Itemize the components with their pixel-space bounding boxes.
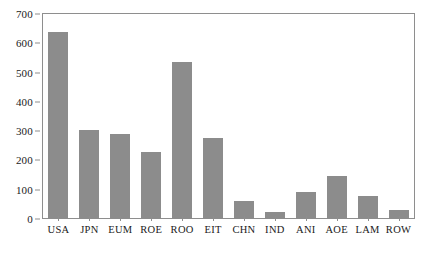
x-tick-mark <box>337 216 338 221</box>
y-tick-label: 300 <box>16 126 33 137</box>
x-tick-label-usa: USA <box>48 224 70 236</box>
bar-chart: 0100200300400500600700 USAJPNEUMROEROOEI… <box>0 0 428 255</box>
y-tick-label: 100 <box>16 184 33 195</box>
y-tick-mark <box>35 101 40 102</box>
bar-eum <box>110 134 130 219</box>
x-tick-label-roe: ROE <box>140 224 162 236</box>
y-tick-label: 0 <box>27 214 33 225</box>
y-tick-mark <box>35 219 40 220</box>
y-tick-label: 400 <box>16 96 33 107</box>
y-tick-mark <box>35 131 40 132</box>
y-tick-label: 700 <box>16 9 33 20</box>
y-tick-label: 200 <box>16 155 33 166</box>
y-tick-mark <box>35 189 40 190</box>
bar-ani <box>296 192 316 219</box>
x-tick-label-row: ROW <box>386 224 411 236</box>
x-tick-label-lam: LAM <box>356 224 380 236</box>
x-tick-label-roo: ROO <box>171 224 194 236</box>
x-tick-label-jpn: JPN <box>80 224 98 236</box>
bar-roo <box>172 62 192 219</box>
x-tick-mark <box>275 216 276 221</box>
bars-layer <box>43 14 414 219</box>
x-tick-mark <box>89 216 90 221</box>
x-tick-mark <box>120 216 121 221</box>
y-tick-label: 500 <box>16 67 33 78</box>
bar-jpn <box>79 130 99 219</box>
x-tick-mark <box>151 216 152 221</box>
x-tick-label-aoe: AOE <box>325 224 347 236</box>
x-tick-mark <box>399 216 400 221</box>
x-axis: USAJPNEUMROEROOEITCHNINDANIAOELAMROW <box>43 222 414 244</box>
bar-roe <box>141 152 161 219</box>
x-tick-mark <box>58 216 59 221</box>
y-tick-mark <box>35 160 40 161</box>
x-tick-label-ind: IND <box>265 224 285 236</box>
y-tick-mark <box>35 14 40 15</box>
bar-aoe <box>327 176 347 219</box>
x-tick-label-eit: EIT <box>204 224 221 236</box>
y-tick-mark <box>35 43 40 44</box>
x-tick-mark <box>306 216 307 221</box>
y-axis: 0100200300400500600700 <box>0 0 40 255</box>
x-tick-mark <box>182 216 183 221</box>
x-tick-mark <box>244 216 245 221</box>
y-tick-label: 600 <box>16 38 33 49</box>
x-tick-label-ani: ANI <box>296 224 316 236</box>
x-tick-mark <box>368 216 369 221</box>
bar-eit <box>203 138 223 219</box>
x-tick-label-chn: CHN <box>232 224 255 236</box>
y-tick-mark <box>35 72 40 73</box>
bar-usa <box>48 32 68 219</box>
x-tick-label-eum: EUM <box>108 224 132 236</box>
x-tick-mark <box>213 216 214 221</box>
